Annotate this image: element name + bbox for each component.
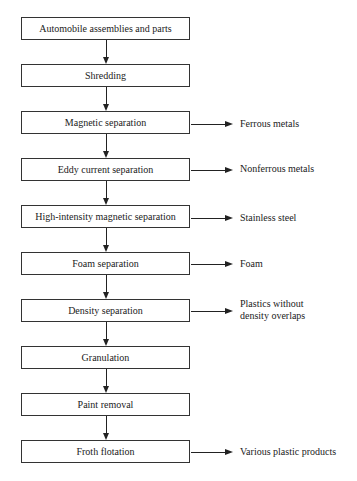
right-arrow-icon [225, 121, 233, 127]
right-arrow-line [191, 452, 226, 453]
right-arrow-line [191, 311, 226, 312]
step-granulation: Granulation [21, 346, 190, 369]
right-arrow-icon [225, 167, 233, 173]
step-high-intensity-magnetic-separation: High-intensity magnetic separation [21, 205, 190, 228]
down-arrow-line [106, 322, 107, 339]
down-arrow-icon [103, 339, 109, 346]
step-froth-flotation: Froth flotation [21, 440, 190, 463]
step-shredding: Shredding [21, 64, 190, 87]
down-arrow-line [106, 416, 107, 433]
down-arrow-icon [103, 245, 109, 252]
right-arrow-line [191, 170, 226, 171]
down-arrow-icon [103, 198, 109, 205]
right-arrow-line [191, 264, 226, 265]
right-arrow-icon [225, 261, 233, 267]
step-foam-separation: Foam separation [21, 252, 190, 275]
down-arrow-line [106, 369, 107, 386]
down-arrow-line [106, 228, 107, 245]
output-ferrous-metals: Ferrous metals [240, 118, 299, 130]
right-arrow-line [191, 218, 226, 219]
step-label: Froth flotation [76, 446, 134, 457]
output-stainless-steel: Stainless steel [240, 212, 296, 224]
step-density-separation: Density separation [21, 299, 190, 322]
down-arrow-icon [103, 57, 109, 64]
right-arrow-line [191, 124, 226, 125]
step-paint-removal: Paint removal [21, 393, 190, 416]
right-arrow-icon [225, 215, 233, 221]
output-nonferrous-metals: Nonferrous metals [240, 163, 314, 175]
step-label: Granulation [82, 352, 130, 363]
down-arrow-line [106, 181, 107, 198]
step-label: Eddy current separation [58, 164, 154, 175]
down-arrow-icon [103, 104, 109, 111]
right-arrow-icon [225, 449, 233, 455]
step-label: Magnetic separation [65, 117, 146, 128]
step-label: Paint removal [78, 399, 134, 410]
step-magnetic-separation: Magnetic separation [21, 111, 190, 134]
step-automobile-assemblies: Automobile assemblies and parts [21, 17, 190, 40]
down-arrow-line [106, 40, 107, 57]
step-label: Shredding [85, 70, 126, 81]
down-arrow-icon [103, 151, 109, 158]
output-foam: Foam [240, 258, 263, 270]
step-label: Density separation [68, 305, 143, 316]
down-arrow-icon [103, 433, 109, 440]
down-arrow-icon [103, 292, 109, 299]
step-label: High-intensity magnetic separation [35, 211, 176, 222]
down-arrow-line [106, 87, 107, 104]
step-eddy-current-separation: Eddy current separation [21, 158, 190, 181]
down-arrow-line [106, 275, 107, 292]
output-plastics-without-density-overlaps: Plastics without density overlaps [240, 298, 305, 322]
right-arrow-icon [225, 308, 233, 314]
down-arrow-icon [103, 386, 109, 393]
down-arrow-line [106, 134, 107, 151]
step-label: Automobile assemblies and parts [39, 23, 171, 34]
step-label: Foam separation [72, 258, 138, 269]
output-various-plastic-products: Various plastic products [240, 446, 336, 458]
